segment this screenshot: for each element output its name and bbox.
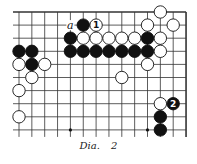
board-marks: a	[66, 19, 74, 32]
black-stone	[103, 45, 115, 57]
black-stone	[90, 45, 102, 57]
white-stone	[154, 98, 166, 110]
white-stone	[90, 32, 102, 44]
black-stone	[154, 111, 166, 123]
move-number-label: 1	[93, 20, 99, 30]
black-stone	[26, 45, 38, 57]
white-stone	[154, 6, 166, 18]
white-stone	[116, 71, 128, 83]
white-stone	[39, 58, 51, 70]
white-stone	[13, 84, 25, 96]
white-stone	[154, 32, 166, 44]
white-stone	[167, 19, 179, 31]
black-stone	[64, 32, 76, 44]
black-stone	[64, 45, 76, 57]
white-stone	[13, 111, 25, 123]
diagram-caption: Dia. 2	[0, 140, 197, 151]
black-stone	[77, 45, 89, 57]
star-point-icon	[69, 128, 72, 131]
point-mark-label: a	[67, 19, 74, 32]
black-stone	[13, 45, 25, 57]
white-stone	[141, 19, 153, 31]
move-number-label: 2	[170, 99, 176, 109]
white-stone	[26, 71, 38, 83]
white-stone	[13, 58, 25, 70]
black-stone	[128, 45, 140, 57]
black-stone	[26, 58, 38, 70]
star-point-icon	[146, 128, 149, 131]
black-stone	[77, 19, 89, 31]
black-stone	[141, 45, 153, 57]
white-stone	[77, 32, 89, 44]
black-stone	[141, 32, 153, 44]
black-stone	[116, 45, 128, 57]
white-stone	[141, 58, 153, 70]
white-stone	[116, 32, 128, 44]
white-stone	[154, 45, 166, 57]
white-stone	[128, 32, 140, 44]
black-stone	[154, 124, 166, 136]
white-stone	[103, 32, 115, 44]
